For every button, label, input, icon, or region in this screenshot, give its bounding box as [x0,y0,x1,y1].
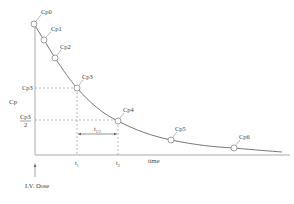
x-axis-label: time [148,157,160,164]
point-cp5: Cp5 [168,125,186,143]
label-cp5: Cp5 [175,125,186,132]
cp3-axis-label: Cp3 [22,84,33,91]
t1-label: t1 [75,159,79,168]
iv-dose-label: I.V. Dose [25,182,49,189]
label-cp2: Cp2 [60,43,71,50]
label-cp1: Cp1 [51,25,62,32]
y-axis-label: Cp [9,98,18,106]
point-cp3: Cp3 [74,73,93,91]
cp3-half-denominator: 2 [24,121,27,128]
point-cp4: Cp4 [115,106,135,124]
point-cp1: Cp1 [41,25,62,43]
label-cp3: Cp3 [82,73,93,80]
label-cp6: Cp6 [239,133,251,140]
half-life-label: t1/2 [94,125,101,134]
label-cp0: Cp0 [41,8,52,15]
pharmacokinetic-decay-diagram: Cp0 Cp1 Cp2 Cp3 Cp4 Cp5 Cp6 Cp Cp3 Cp3 2… [0,0,294,204]
cp3-half-numerator: Cp3 [20,113,31,120]
point-cp2: Cp2 [52,43,71,61]
t2-label: t2 [116,159,120,168]
iv-dose-arrow [34,163,36,177]
point-cp0: Cp0 [31,8,52,27]
label-cp4: Cp4 [123,106,135,113]
